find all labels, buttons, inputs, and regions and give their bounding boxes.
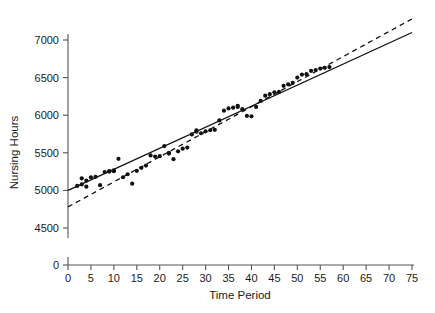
data-point <box>167 151 171 155</box>
data-point <box>323 66 327 70</box>
data-point <box>181 147 185 151</box>
chart-figure: 450050005500600065007000 051015202530354… <box>0 0 435 313</box>
data-point <box>126 172 130 176</box>
data-point <box>89 175 93 179</box>
data-point <box>130 182 134 186</box>
y-tick-label: 5000 <box>35 184 59 196</box>
data-point <box>162 144 166 148</box>
data-point <box>176 149 180 153</box>
data-point <box>116 157 120 161</box>
x-tick-label: 20 <box>154 272 166 284</box>
data-point <box>208 128 212 132</box>
x-axis-ticks <box>68 265 412 270</box>
data-point <box>112 168 116 172</box>
data-point <box>281 84 285 88</box>
x-tick-label: 25 <box>177 272 189 284</box>
data-point <box>309 69 313 73</box>
y-tick-label: 6500 <box>35 72 59 84</box>
data-point <box>80 176 84 180</box>
x-tick-label: 40 <box>245 272 257 284</box>
x-tick-label: 70 <box>383 272 395 284</box>
x-axis-title: Time Period <box>209 289 271 301</box>
data-point <box>318 66 322 70</box>
data-point <box>144 163 148 167</box>
data-point <box>84 185 88 189</box>
data-points-group <box>75 65 331 189</box>
data-point <box>185 145 189 149</box>
scatter-plot-svg: 450050005500600065007000 051015202530354… <box>0 0 435 313</box>
data-point <box>158 154 162 158</box>
data-point <box>222 109 226 113</box>
data-point <box>217 118 221 122</box>
data-point <box>103 170 107 174</box>
data-point <box>107 169 111 173</box>
x-tick-label: 45 <box>268 272 280 284</box>
data-point <box>199 131 203 135</box>
data-point <box>249 114 253 118</box>
reference-trend-line <box>68 19 412 207</box>
x-tick-label: 75 <box>406 272 418 284</box>
data-point <box>272 90 276 94</box>
data-point <box>190 132 194 136</box>
data-point <box>245 114 249 118</box>
y-tick-label: 5500 <box>35 147 59 159</box>
data-point <box>231 106 235 110</box>
y-axis-tick-labels: 450050005500600065007000 <box>35 34 59 234</box>
data-point <box>327 65 331 69</box>
x-tick-label: 15 <box>131 272 143 284</box>
x-tick-label: 30 <box>199 272 211 284</box>
data-point <box>304 72 308 76</box>
data-point <box>291 81 295 85</box>
data-point <box>286 82 290 86</box>
x-tick-label: 55 <box>314 272 326 284</box>
data-point <box>121 175 125 179</box>
y-tick-label: 6000 <box>35 109 59 121</box>
data-point <box>314 68 318 72</box>
x-tick-label: 60 <box>337 272 349 284</box>
x-tick-label: 0 <box>65 272 71 284</box>
data-point <box>93 175 97 179</box>
x-tick-label: 35 <box>222 272 234 284</box>
data-point <box>213 128 217 132</box>
y-axis-zero-label: 0 <box>53 259 59 271</box>
data-point <box>84 179 88 183</box>
data-point <box>240 107 244 111</box>
data-point <box>204 129 208 133</box>
data-point <box>148 153 152 157</box>
y-tick-label: 7000 <box>35 34 59 46</box>
y-tick-label: 4500 <box>35 222 59 234</box>
x-tick-label: 65 <box>360 272 372 284</box>
data-point <box>80 182 84 186</box>
x-tick-label: 50 <box>291 272 303 284</box>
data-point <box>277 90 281 94</box>
y-axis-ticks <box>63 40 68 265</box>
data-point <box>236 104 240 108</box>
axes-group <box>68 34 414 265</box>
data-point <box>139 166 143 170</box>
data-point <box>194 128 198 132</box>
data-point <box>254 105 258 109</box>
data-point <box>295 76 299 80</box>
data-point <box>135 169 139 173</box>
data-point <box>259 99 263 103</box>
data-point <box>75 184 79 188</box>
data-point <box>300 72 304 76</box>
x-tick-label: 10 <box>108 272 120 284</box>
x-tick-label: 5 <box>88 272 94 284</box>
data-point <box>263 94 267 98</box>
data-point <box>226 106 230 110</box>
data-point <box>153 154 157 158</box>
fitted-regression-line <box>68 32 412 190</box>
y-axis-title: Nursing Hours <box>8 116 20 190</box>
data-point <box>171 157 175 161</box>
data-point <box>98 183 102 187</box>
x-axis-tick-labels: 051015202530354045505560657075 <box>65 272 418 284</box>
data-point <box>268 92 272 96</box>
